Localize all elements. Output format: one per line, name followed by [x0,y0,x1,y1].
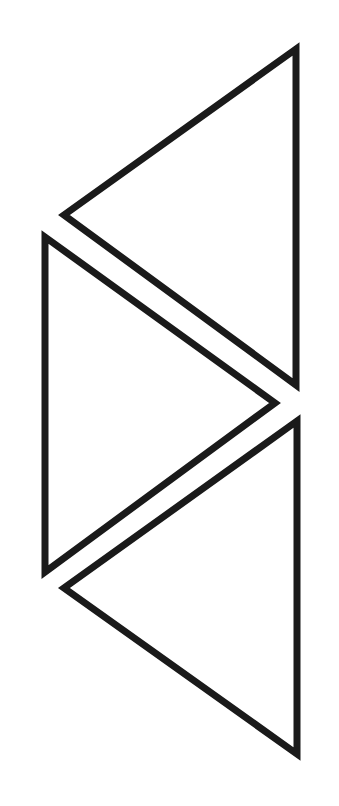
triangles-diagram [0,0,339,806]
diagram-canvas [0,0,339,806]
